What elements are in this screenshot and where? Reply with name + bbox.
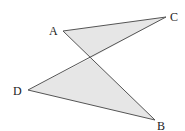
diagram-svg: A C D B (0, 0, 185, 131)
upper-shaded-triangle (63, 17, 166, 58)
lower-shaded-triangle (28, 58, 155, 120)
label-d: D (13, 84, 22, 98)
label-a: A (49, 24, 58, 38)
label-b: B (157, 119, 165, 131)
triangle-diagram: A C D B (0, 0, 185, 131)
label-c: C (170, 10, 178, 24)
